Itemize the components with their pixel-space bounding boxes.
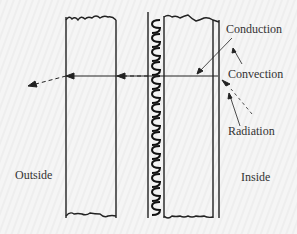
- inside-label: Inside: [241, 170, 270, 185]
- convection-label: Convection: [228, 67, 283, 82]
- outside-label: Outside: [15, 168, 52, 183]
- radiation-label: Radiation: [228, 124, 275, 139]
- conduction-label: Conduction: [226, 22, 282, 37]
